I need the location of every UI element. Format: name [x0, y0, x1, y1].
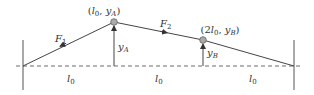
mass-a — [111, 19, 118, 26]
force-1-label: F1 — [54, 33, 66, 46]
string-segment-1 — [23, 22, 114, 66]
segment-length-label-3: l0 — [249, 73, 257, 86]
diagram: (l0, yA) (2l0, yB) F1 F2 yA yB l0 l0 l0 — [0, 0, 314, 95]
segment-length-label-1: l0 — [67, 73, 75, 86]
mass-b — [200, 37, 207, 44]
point-b-label: (2l0, yB) — [200, 24, 239, 37]
segment-length-label-2: l0 — [155, 73, 163, 86]
point-a-label: (l0, yA) — [88, 5, 121, 18]
height-b-label: yB — [206, 47, 218, 60]
height-a-label: yA — [117, 41, 129, 54]
string-segment-2 — [114, 22, 203, 40]
force-2-arrow — [160, 31, 167, 32]
force-2-label: F2 — [159, 18, 171, 31]
